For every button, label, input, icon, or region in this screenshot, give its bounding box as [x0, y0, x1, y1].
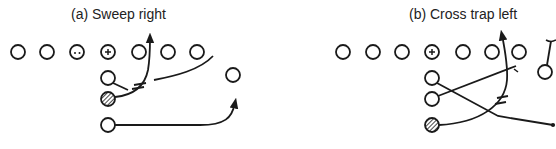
handoff-mark	[497, 96, 508, 98]
dot-icon	[79, 52, 81, 54]
player-circle	[456, 45, 470, 59]
swing-route	[115, 103, 235, 125]
player-circle	[161, 45, 175, 59]
dot-icon	[74, 52, 76, 54]
receiver-circle	[538, 65, 552, 79]
back-circle	[101, 71, 115, 85]
player-circle-dots	[70, 45, 84, 59]
play-diagrams	[0, 0, 556, 149]
pull-route	[154, 56, 213, 80]
player-circle	[366, 45, 380, 59]
back-circle	[425, 71, 439, 85]
block-mark	[546, 40, 556, 42]
player-circle	[132, 45, 146, 59]
block-mark	[514, 69, 518, 72]
handoff-mark	[134, 83, 146, 85]
player-circle	[512, 45, 526, 59]
player-circle	[485, 45, 499, 59]
player-circle	[11, 45, 25, 59]
block-route	[113, 83, 128, 90]
player-circle	[40, 45, 54, 59]
receiver-circle	[226, 68, 240, 82]
ball-carrier-hatched	[101, 92, 115, 106]
flanker-route	[547, 41, 551, 65]
player-circle	[190, 45, 204, 59]
back-circle	[425, 92, 439, 106]
route-end-dot	[552, 124, 554, 126]
back-circle	[101, 118, 115, 132]
player-circle	[336, 45, 350, 59]
ball-carrier-hatched	[425, 118, 439, 132]
player-circle	[395, 45, 409, 59]
